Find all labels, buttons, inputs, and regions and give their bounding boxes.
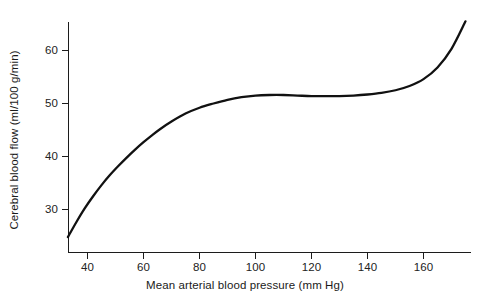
x-tick-label-60: 60 — [137, 261, 150, 273]
x-tick-label-40: 40 — [81, 261, 94, 273]
x-axis-title: Mean arterial blood pressure (mm Hg) — [146, 279, 344, 291]
y-tick-label-30: 30 — [38, 203, 58, 215]
x-tick-label-80: 80 — [193, 261, 206, 273]
x-tick-label-100: 100 — [246, 261, 266, 273]
y-axis-title: Cerebral blood flow (ml/100 g/min) — [8, 50, 20, 229]
x-axis-ticks — [88, 253, 424, 260]
x-tick-label-140: 140 — [358, 261, 378, 273]
autoregulation-curve — [68, 21, 466, 237]
chart-plot-area — [0, 0, 490, 304]
x-tick-label-160: 160 — [414, 261, 434, 273]
cerebral-autoregulation-chart: 60 50 40 30 40 60 80 100 120 140 160 Mea… — [0, 0, 490, 304]
y-tick-label-50: 50 — [38, 97, 58, 109]
x-tick-label-120: 120 — [302, 261, 322, 273]
y-axis-ticks — [62, 51, 69, 210]
y-tick-label-40: 40 — [38, 150, 58, 162]
y-tick-label-60: 60 — [38, 44, 58, 56]
